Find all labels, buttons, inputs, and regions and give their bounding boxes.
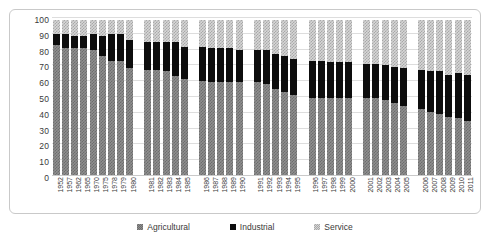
bar-column[interactable] (289, 20, 298, 176)
stacked-bar[interactable] (181, 20, 188, 176)
bar-column[interactable] (444, 20, 453, 176)
bar-segment-service (391, 20, 398, 67)
stacked-bar[interactable] (254, 20, 261, 176)
bar-column[interactable] (454, 20, 463, 176)
stacked-bar[interactable] (445, 20, 452, 176)
stacked-bar[interactable] (90, 20, 97, 176)
bar-column[interactable] (344, 20, 353, 176)
bar-column[interactable] (253, 20, 262, 176)
bar-column[interactable] (143, 20, 152, 176)
bar-column[interactable] (225, 20, 234, 176)
stacked-bar[interactable] (464, 20, 471, 176)
legend-item-agricultural[interactable]: Agricultural (137, 222, 190, 232)
stacked-bar[interactable] (290, 20, 297, 176)
bar-segment-industrial (80, 36, 87, 48)
bar-column[interactable] (79, 20, 88, 176)
stacked-bar[interactable] (53, 20, 60, 176)
stacked-bar[interactable] (391, 20, 398, 176)
bar-segment-industrial (236, 50, 243, 83)
bar-column[interactable] (463, 20, 472, 176)
stacked-bar[interactable] (108, 20, 115, 176)
stacked-bar[interactable] (62, 20, 69, 176)
stacked-bar[interactable] (309, 20, 316, 176)
bar-column[interactable] (417, 20, 426, 176)
bar-column[interactable] (70, 20, 79, 176)
stacked-bar[interactable] (80, 20, 87, 176)
stacked-bar[interactable] (217, 20, 224, 176)
bar-column[interactable] (98, 20, 107, 176)
bar-column[interactable] (152, 20, 161, 176)
bar-column[interactable] (61, 20, 70, 176)
bar-column[interactable] (198, 20, 207, 176)
bar-segment-service (318, 20, 325, 61)
stacked-bar[interactable] (117, 20, 124, 176)
stacked-bar[interactable] (263, 20, 270, 176)
stacked-bar[interactable] (99, 20, 106, 176)
stacked-bar[interactable] (281, 20, 288, 176)
bar-column[interactable] (362, 20, 371, 176)
bar-column[interactable] (399, 20, 408, 176)
stacked-bar[interactable] (208, 20, 215, 176)
stacked-bar[interactable] (71, 20, 78, 176)
stacked-bar[interactable] (436, 20, 443, 176)
bar-column[interactable] (216, 20, 225, 176)
bar-column[interactable] (235, 20, 244, 176)
stacked-bar[interactable] (372, 20, 379, 176)
bar-segment-service (99, 20, 106, 36)
stacked-bar[interactable] (418, 20, 425, 176)
bar-segment-service (217, 20, 224, 48)
bar-column[interactable] (335, 20, 344, 176)
bar-column[interactable] (162, 20, 171, 176)
legend-swatch-service (314, 224, 320, 230)
stacked-bar[interactable] (272, 20, 279, 176)
bar-column[interactable] (207, 20, 216, 176)
bar-column[interactable] (262, 20, 271, 176)
bar-column[interactable] (381, 20, 390, 176)
x-axis-tick: 1994 (280, 176, 289, 213)
stacked-bar[interactable] (455, 20, 462, 176)
bar-column[interactable] (280, 20, 289, 176)
legend-item-service[interactable]: Service (314, 222, 352, 232)
bar-column[interactable] (426, 20, 435, 176)
stacked-bar[interactable] (199, 20, 206, 176)
bar-column[interactable] (125, 20, 134, 176)
bar-column[interactable] (116, 20, 125, 176)
stacked-bar[interactable] (153, 20, 160, 176)
bar-column[interactable] (308, 20, 317, 176)
stacked-bar[interactable] (345, 20, 352, 176)
bar-column-gap (408, 20, 417, 176)
bar-column[interactable] (371, 20, 380, 176)
bar-column[interactable] (89, 20, 98, 176)
bar-segment-service (208, 20, 215, 48)
bar-column[interactable] (271, 20, 280, 176)
stacked-bar[interactable] (236, 20, 243, 176)
stacked-bar[interactable] (172, 20, 179, 176)
stacked-bar[interactable] (144, 20, 151, 176)
stacked-bar[interactable] (336, 20, 343, 176)
bar-column[interactable] (171, 20, 180, 176)
stacked-bar[interactable] (427, 20, 434, 176)
stacked-bar[interactable] (363, 20, 370, 176)
stacked-bar[interactable] (163, 20, 170, 176)
bar-segment-service (117, 20, 124, 34)
stacked-bar[interactable] (400, 20, 407, 176)
bar-column[interactable] (180, 20, 189, 176)
x-axis-tick: 1979 (116, 176, 125, 213)
stacked-bar[interactable] (318, 20, 325, 176)
bar-segment-agricultural (172, 76, 179, 176)
bar-column[interactable] (326, 20, 335, 176)
bar-column[interactable] (317, 20, 326, 176)
y-axis-tick-label: 20 (23, 142, 49, 151)
bar-segment-industrial (418, 70, 425, 109)
bar-column[interactable] (390, 20, 399, 176)
bar-column-gap (189, 20, 198, 176)
stacked-bar[interactable] (382, 20, 389, 176)
bar-column[interactable] (52, 20, 61, 176)
stacked-bar[interactable] (226, 20, 233, 176)
bar-segment-service (400, 20, 407, 68)
legend-item-industrial[interactable]: Industrial (230, 222, 275, 232)
stacked-bar[interactable] (126, 20, 133, 176)
bar-column[interactable] (435, 20, 444, 176)
stacked-bar[interactable] (327, 20, 334, 176)
bar-column[interactable] (107, 20, 116, 176)
